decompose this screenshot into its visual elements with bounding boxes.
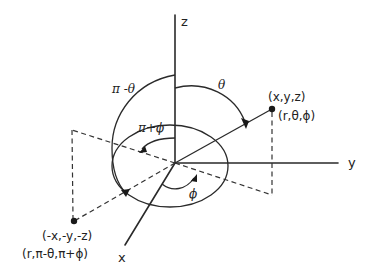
pi-plus-phi-arc — [142, 138, 175, 149]
z-axis-label: z — [181, 14, 188, 29]
y-axis-label: y — [348, 155, 356, 170]
point-inverted-spherical-label: (r,π-θ,π+ϕ) — [22, 247, 88, 261]
xy-plane-ellipse — [112, 125, 228, 207]
theta-label: θ — [218, 78, 226, 92]
spherical-coordinates-diagram: z y x θ π -θ π+ϕ ϕ (x,y,z) (r,θ,ϕ) (-x,-… — [0, 0, 373, 272]
point-inverted-cartesian-label: (-x,-y,-z) — [42, 229, 92, 243]
inverted-projection-vertical — [72, 130, 73, 218]
theta-arc — [175, 86, 245, 122]
pi-minus-theta-label: π -θ — [111, 82, 136, 96]
point-p-cartesian-label: (x,y,z) — [268, 90, 306, 104]
x-axis-label: x — [118, 250, 126, 265]
pi-plus-phi-label: π+ϕ — [137, 121, 164, 135]
phi-label: ϕ — [189, 187, 197, 201]
point-p-spherical-label: (r,θ,ϕ) — [278, 109, 315, 123]
radius-vector — [175, 109, 272, 163]
theta-arrow-icon — [241, 118, 249, 129]
point-inverted-dot — [71, 218, 77, 224]
phi-arrow-icon — [191, 174, 197, 182]
point-p-dot — [269, 106, 275, 112]
